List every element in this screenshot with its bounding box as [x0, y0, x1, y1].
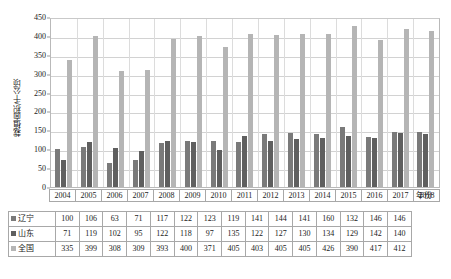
bar — [119, 71, 124, 187]
legend-label: 全国 — [18, 244, 34, 253]
bar — [93, 36, 98, 187]
x-axis-year-cell: 2004 — [49, 189, 76, 202]
bar — [113, 148, 118, 187]
bar — [139, 151, 144, 187]
y-tick-label: 100 — [34, 146, 46, 154]
table-cell: 141 — [293, 212, 317, 227]
bar — [268, 141, 273, 187]
table-cell: 393 — [150, 242, 174, 257]
bar — [378, 40, 383, 187]
bar — [67, 60, 72, 187]
x-axis-year-cell: 2013 — [283, 189, 310, 202]
table-cell: 130 — [293, 227, 317, 242]
bar — [294, 139, 299, 187]
table-cell: 371 — [198, 242, 222, 257]
table-cell: 100 — [56, 212, 80, 227]
table-cell: 118 — [174, 227, 198, 242]
x-axis-year-cell: 2010 — [205, 189, 232, 202]
bar — [171, 39, 176, 187]
table-cell: 117 — [150, 212, 174, 227]
table-cell: 106 — [79, 212, 103, 227]
x-axis-year-cell: 2006 — [101, 189, 128, 202]
bar — [236, 142, 241, 187]
y-tick-label: 450 — [34, 14, 46, 22]
bar — [340, 127, 345, 187]
table-cell: 335 — [56, 242, 80, 257]
y-tick-label: 200 — [34, 108, 46, 116]
bar-group — [77, 19, 103, 187]
x-axis-year-cell: 2014 — [309, 189, 336, 202]
table-cell: 71 — [127, 212, 151, 227]
table-cell: 405 — [293, 242, 317, 257]
table-cell: 160 — [316, 212, 340, 227]
table-cell: 134 — [316, 227, 340, 242]
table-cell: 417 — [364, 242, 388, 257]
bar-group — [361, 19, 387, 187]
bar — [55, 149, 60, 187]
y-tick-label: 300 — [34, 71, 46, 79]
legend-swatch-icon — [11, 216, 16, 221]
bar — [392, 132, 397, 187]
table-cell: 144 — [269, 212, 293, 227]
x-axis-unit-label: 年份 — [416, 189, 432, 202]
legend-label: 辽宁 — [18, 214, 34, 223]
table-cell: 140 — [388, 227, 412, 242]
bar — [404, 29, 409, 187]
table-cell: 405 — [222, 242, 246, 257]
bar — [211, 141, 216, 187]
bar-group — [206, 19, 232, 187]
bar-group — [129, 19, 155, 187]
table-cell: 97 — [198, 227, 222, 242]
table-cell: 399 — [79, 242, 103, 257]
bar — [81, 147, 86, 187]
y-tick-label: 0 — [42, 184, 46, 192]
table-row: 全国33539930830939340037140540340540542639… — [9, 242, 412, 257]
x-axis-year-cell: 2005 — [75, 189, 102, 202]
bar — [326, 34, 331, 187]
bar-group — [232, 19, 258, 187]
table-cell: 122 — [150, 227, 174, 242]
bar-chart: 栽植面积/千公顷 050100150200250300350400450 200… — [0, 0, 451, 200]
x-axis-year-cell: 2011 — [231, 189, 258, 202]
legend-swatch-icon — [11, 246, 16, 251]
legend-swatch-icon — [11, 231, 16, 236]
table-cell: 400 — [174, 242, 198, 257]
bar — [145, 70, 150, 187]
bar — [429, 31, 434, 187]
table-cell: 141 — [245, 212, 269, 227]
bar — [288, 133, 293, 187]
bar — [61, 160, 66, 187]
data-table: 2004200520062007200820092010201120122013… — [8, 211, 412, 257]
bar-groups — [51, 19, 439, 187]
y-tick-label: 250 — [34, 90, 46, 98]
y-tick-label: 400 — [34, 33, 46, 41]
table-cell: 405 — [269, 242, 293, 257]
bar — [366, 137, 371, 187]
x-axis-year-cell: 2009 — [179, 189, 206, 202]
bar-group — [335, 19, 361, 187]
bar — [248, 34, 253, 187]
chart-page: 栽植面积/千公顷 050100150200250300350400450 200… — [0, 0, 451, 279]
table-row: 山东71119102951221189713512212713013412914… — [9, 227, 412, 242]
bar-group — [310, 19, 336, 187]
bar — [159, 143, 164, 187]
bar — [314, 134, 319, 187]
bar-group — [180, 19, 206, 187]
table-cell: 390 — [340, 242, 364, 257]
bar — [398, 133, 403, 187]
bar — [320, 138, 325, 187]
bar-group — [413, 19, 439, 187]
table-cell: 119 — [79, 227, 103, 242]
x-axis-year-cell: 2008 — [153, 189, 180, 202]
bar-group — [387, 19, 413, 187]
bar — [133, 160, 138, 187]
table-cell: 412 — [388, 242, 412, 257]
bar-group — [103, 19, 129, 187]
bar — [372, 138, 377, 187]
table-cell: 135 — [222, 227, 246, 242]
legend-label: 山东 — [18, 229, 34, 238]
x-axis-year-cell: 2007 — [127, 189, 154, 202]
table-cell: 142 — [364, 227, 388, 242]
table-cell: 122 — [245, 227, 269, 242]
bar — [423, 134, 428, 187]
